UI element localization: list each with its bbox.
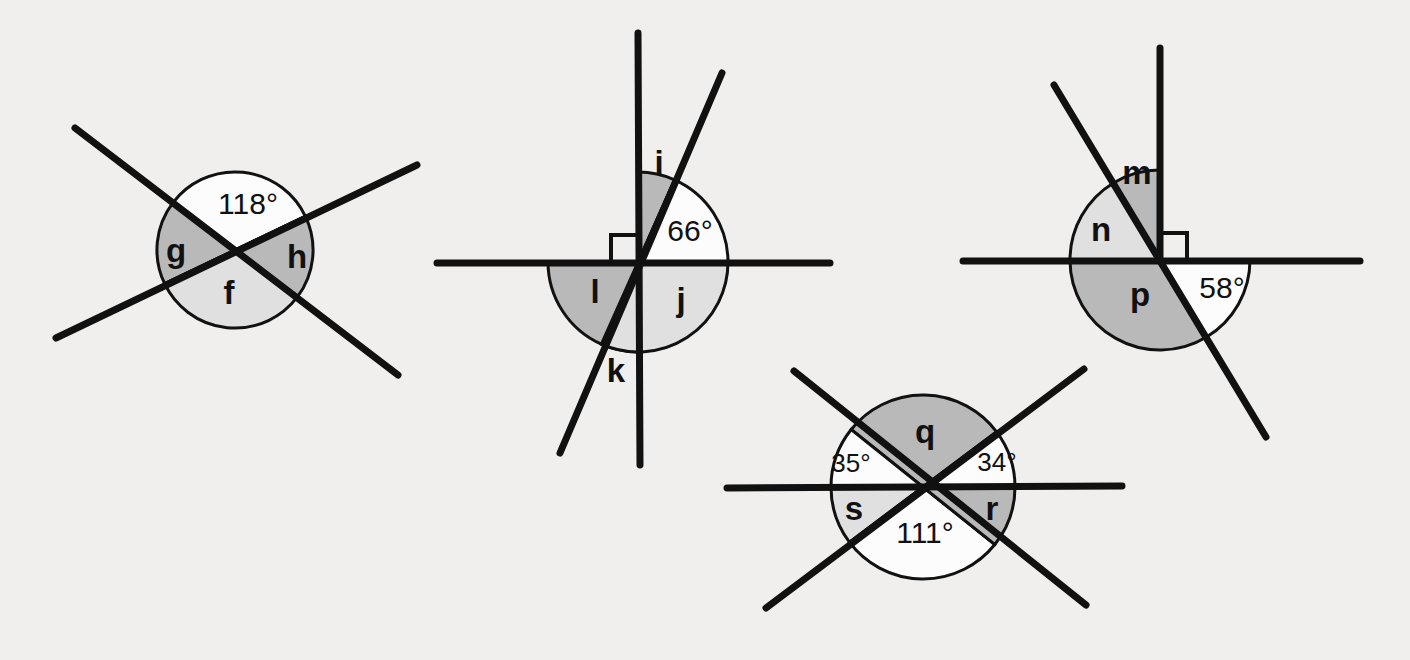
figure-4: q 35° 34° s r 111°: [727, 369, 1122, 608]
angle-label-l: l: [590, 273, 599, 310]
angle-label-k: k: [607, 352, 626, 389]
angle-label-66: 66°: [667, 214, 712, 247]
angle-label-r: r: [986, 490, 999, 527]
right-angle-mark-figure-3: [1160, 233, 1187, 260]
right-angle-mark-figure-2: [611, 235, 638, 262]
angle-label-35: 35°: [831, 448, 870, 478]
figure-3: m n p 58°: [963, 48, 1360, 437]
angle-label-111: 111°: [896, 516, 954, 549]
diagram-canvas: 118° g h f i 66° j k: [0, 0, 1410, 660]
angle-label-58: 58°: [1199, 271, 1244, 304]
figure-2: i 66° j k l: [437, 33, 830, 465]
figure-2-vertical-line: [638, 33, 640, 465]
angle-figures-svg: 118° g h f i 66° j k: [0, 0, 1410, 660]
angle-label-34: 34°: [977, 447, 1016, 477]
angle-label-f: f: [224, 274, 236, 311]
angle-label-n: n: [1091, 211, 1111, 248]
angle-label-j: j: [675, 281, 685, 318]
angle-label-118: 118°: [218, 187, 278, 220]
angle-label-m: m: [1122, 154, 1151, 191]
angle-label-p: p: [1130, 276, 1150, 313]
angle-label-g: g: [166, 232, 186, 269]
angle-label-i: i: [654, 144, 663, 181]
figure-1: 118° g h f: [56, 128, 417, 375]
angle-label-s: s: [845, 490, 863, 527]
angle-label-q: q: [915, 413, 935, 450]
angle-label-h: h: [287, 238, 307, 275]
